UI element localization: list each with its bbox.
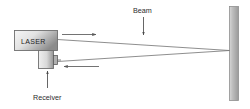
receiver-aperture (54, 56, 58, 65)
figure-canvas: LASER Beam Receiver (0, 0, 250, 109)
laser-rangefinder-diagram: LASER Beam Receiver (0, 0, 250, 109)
beam-outgoing-ray (58, 40, 230, 51)
beam-returning-ray (58, 51, 230, 62)
receiver-housing (39, 51, 54, 69)
laser-label: LASER (21, 38, 46, 45)
target-surface (230, 7, 239, 101)
receiver-label: Receiver (33, 93, 62, 102)
beam-label: Beam (133, 6, 152, 15)
